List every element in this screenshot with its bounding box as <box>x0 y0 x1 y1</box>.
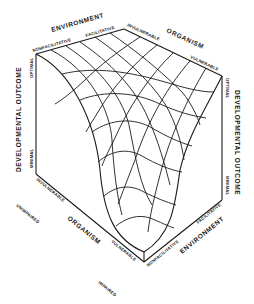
grid-line <box>62 70 214 92</box>
impaired-label: IMPAIRED <box>97 280 117 298</box>
nonfacilitative-tick-bottom: NONFACILITATIVE <box>145 239 179 268</box>
grid-line <box>104 187 176 205</box>
vulnerable-tick-bottom: VULNERABLE <box>110 239 137 262</box>
invulnerable-tick-bottom: INVULNERABLE <box>35 177 66 203</box>
developmental-outcome-title-left: DEVELOPMENTAL OUTCOME <box>15 67 22 172</box>
developmental-outcome-surface-diagram: ENVIRONMENT NONFACILITATIVE FACILITATIVE… <box>0 0 254 304</box>
grid-line <box>51 50 122 215</box>
optimal-tick-right: OPTIMAL <box>225 78 230 98</box>
grid-line <box>116 216 174 228</box>
developmental-outcome-title-right: DEVELOPMENTAL OUTCOME <box>234 90 241 195</box>
grid-line <box>86 45 157 132</box>
organism-axis-title-top: ORGANISM <box>166 27 206 50</box>
top-edge-environment <box>36 29 124 54</box>
optimal-tick-left: OPTIMAL <box>29 58 34 78</box>
minimal-tick-left: MINIMAL <box>29 148 34 168</box>
grid-line <box>98 151 182 172</box>
minimal-tick-right: MINIMAL <box>225 176 230 196</box>
unimpaired-label: UNIMPAIRED <box>15 203 40 225</box>
surface <box>36 33 222 252</box>
organism-axis-title-bottom: ORGANISM <box>66 214 102 245</box>
